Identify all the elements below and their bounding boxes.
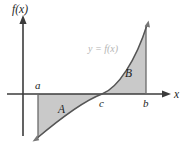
region-a-shading (38, 94, 102, 138)
point-label-a: a (35, 79, 41, 91)
figure-container: f(x) x y = f(x) a c b A B (0, 0, 191, 160)
region-label-b: B (125, 67, 132, 79)
curve-label: y = f(x) (87, 43, 119, 55)
point-label-c: c (99, 97, 104, 109)
x-axis-arrow-icon (162, 90, 171, 97)
y-axis-label: f(x) (12, 3, 28, 16)
x-axis-label: x (173, 88, 180, 100)
graph-svg: f(x) x y = f(x) a c b A B (0, 0, 191, 160)
point-label-b: b (143, 97, 149, 109)
region-label-a: A (57, 103, 66, 115)
region-b-shading (102, 26, 146, 94)
y-axis-arrow-icon (19, 15, 26, 24)
